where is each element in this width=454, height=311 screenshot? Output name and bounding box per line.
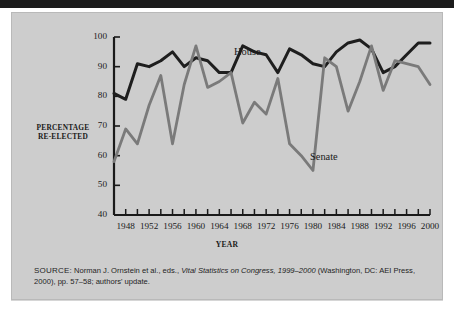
x-tick-label: 1984 (323, 221, 349, 231)
y-tick-label: 70 (85, 120, 107, 130)
page-bottom-rule (11, 300, 443, 301)
x-tick-label: 1972 (253, 221, 279, 231)
plot-area: PERCENTAGE RE-ELECTED YEAR House Senate … (12, 13, 444, 253)
y-tick-label: 90 (85, 61, 107, 71)
series-label-senate: Senate (310, 151, 338, 162)
x-tick-label: 1976 (277, 221, 303, 231)
source-keyword: SOURCE: (34, 266, 72, 275)
x-tick-label: 1980 (300, 221, 326, 231)
source-authors: Norman J. Ornstein et al., eds., (72, 266, 181, 275)
x-tick-label: 1992 (370, 221, 396, 231)
page-top-rule (0, 0, 454, 8)
y-axis-title-line1: PERCENTAGE (37, 123, 90, 132)
figure-panel: PERCENTAGE RE-ELECTED YEAR House Senate … (11, 12, 443, 300)
y-tick-label: 60 (85, 150, 107, 160)
y-tick-label: 80 (85, 90, 107, 100)
y-tick-label: 100 (85, 31, 107, 41)
x-tick-label: 2000 (417, 221, 443, 231)
y-tick-label: 40 (85, 209, 107, 219)
source-note: SOURCE: Norman J. Ornstein et al., eds.,… (34, 265, 432, 288)
y-axis-title-line2: RE-ELECTED (38, 132, 88, 141)
x-tick-label: 1988 (347, 221, 373, 231)
x-tick-label: 1960 (183, 221, 209, 231)
x-tick-label: 1948 (113, 221, 139, 231)
x-tick-label: 1968 (230, 221, 256, 231)
source-title: Vital Statistics on Congress, 1999–2000 (181, 266, 316, 275)
y-tick-label: 50 (85, 179, 107, 189)
x-tick-label: 1964 (206, 221, 232, 231)
series-label-house: House (234, 46, 261, 57)
data-series-group (114, 40, 430, 171)
x-tick-label: 1956 (160, 221, 186, 231)
x-tick-label: 1952 (136, 221, 162, 231)
x-tick-label: 1996 (394, 221, 420, 231)
x-axis-title: YEAR (182, 240, 272, 249)
figure-page: PERCENTAGE RE-ELECTED YEAR House Senate … (0, 0, 454, 311)
